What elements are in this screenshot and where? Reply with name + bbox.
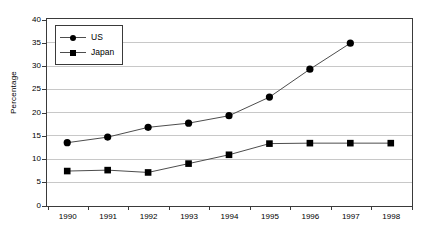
x-axis-tick-label: 1993 <box>169 213 209 221</box>
legend-item-japan: Japan <box>60 45 114 60</box>
data-point-japan <box>64 168 71 175</box>
plot-area: US Japan <box>46 18 413 207</box>
data-point-us <box>145 124 152 131</box>
data-point-japan <box>226 151 233 158</box>
x-axis-tick-label: 1992 <box>129 213 169 221</box>
data-point-us <box>185 120 192 127</box>
data-point-japan <box>266 140 273 147</box>
y-axis-tick-label: 5 <box>15 178 41 186</box>
x-axis-tick-label: 1996 <box>290 213 330 221</box>
data-point-japan <box>347 140 354 147</box>
y-axis-tick-label: 35 <box>15 39 41 47</box>
y-axis-tick-label: 15 <box>15 132 41 140</box>
y-axis-tick-label: 20 <box>15 109 41 117</box>
y-axis-tick-label: 30 <box>15 62 41 70</box>
x-axis-tick-label: 1997 <box>331 213 371 221</box>
x-axis-tick-label: 1995 <box>250 213 290 221</box>
data-point-us <box>64 139 71 146</box>
data-point-japan <box>185 160 192 167</box>
data-point-japan <box>104 167 111 174</box>
x-axis-tick-label: 1994 <box>210 213 250 221</box>
data-point-japan <box>145 169 152 176</box>
data-point-us <box>306 66 313 73</box>
y-axis-tick-label: 40 <box>15 16 41 24</box>
legend: US Japan <box>55 25 123 65</box>
y-axis-tick-label: 10 <box>15 155 41 163</box>
x-axis-tick-label: 1990 <box>48 213 88 221</box>
y-axis-tick-label: 0 <box>15 202 41 210</box>
square-marker-icon <box>60 48 86 58</box>
data-point-us <box>104 134 111 141</box>
data-point-japan <box>387 140 394 147</box>
line-chart: Percentage 0510152025303540 199019911992… <box>0 0 427 233</box>
legend-label-us: US <box>91 33 103 42</box>
data-point-us <box>225 112 232 119</box>
x-axis-tick-label: 1991 <box>88 213 128 221</box>
data-point-us <box>347 40 354 47</box>
x-axis-tick-label: 1998 <box>371 213 411 221</box>
legend-item-us: US <box>60 30 114 45</box>
legend-label-japan: Japan <box>91 48 114 57</box>
circle-marker-icon <box>60 33 86 43</box>
y-axis-tick-label: 25 <box>15 85 41 93</box>
data-point-us <box>266 94 273 101</box>
data-point-japan <box>307 140 314 147</box>
